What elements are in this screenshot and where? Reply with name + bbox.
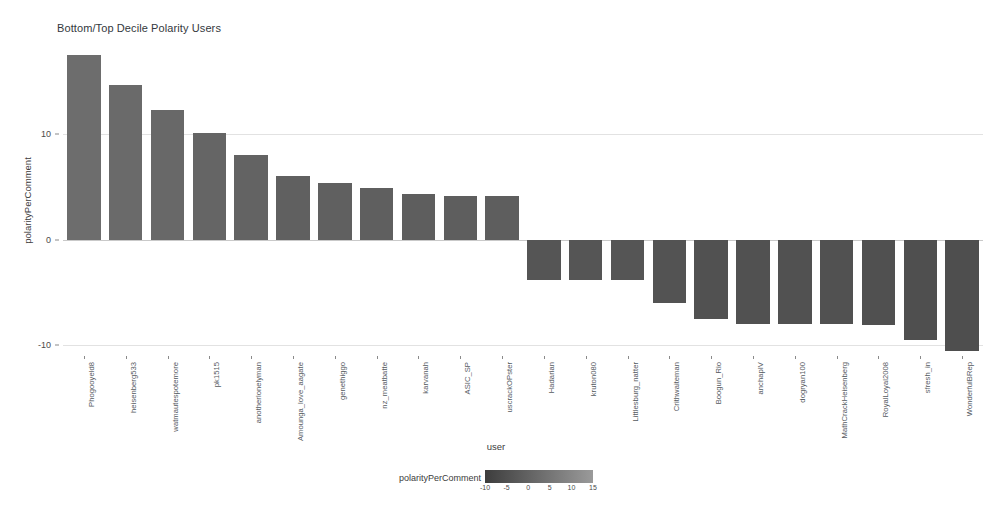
bars-layer bbox=[63, 44, 983, 356]
x-tick-mark bbox=[711, 356, 712, 359]
chart-title: Bottom/Top Decile Polarity Users bbox=[57, 22, 221, 34]
x-tick-label: heisenberg533 bbox=[129, 362, 138, 413]
bar[interactable] bbox=[527, 240, 560, 280]
bar[interactable] bbox=[318, 183, 351, 240]
bar[interactable] bbox=[736, 240, 769, 325]
x-tick-label: pk1515 bbox=[212, 362, 221, 387]
x-tick-mark bbox=[168, 356, 169, 359]
legend-tick-label: 5 bbox=[548, 484, 552, 491]
legend-tick-label: 10 bbox=[568, 484, 576, 491]
bar[interactable] bbox=[820, 240, 853, 325]
x-tick-label: sfresh_in bbox=[923, 362, 932, 393]
legend-tick-label: 0 bbox=[526, 484, 530, 491]
legend-gradient-bar bbox=[485, 470, 593, 483]
x-tick-mark bbox=[209, 356, 210, 359]
x-tick-label: watmautespotemore bbox=[171, 362, 180, 432]
y-tick-mark bbox=[55, 133, 59, 134]
x-tick-label: genethiggo bbox=[338, 362, 347, 400]
x-tick-mark bbox=[502, 356, 503, 359]
x-tick-label: RoyalLoyal2008 bbox=[881, 362, 890, 417]
bar[interactable] bbox=[485, 196, 518, 239]
bar[interactable] bbox=[611, 240, 644, 280]
legend-title: polarityPerComment bbox=[399, 470, 481, 483]
legend-tick-label: -5 bbox=[503, 484, 509, 491]
bar[interactable] bbox=[653, 240, 686, 303]
bar[interactable] bbox=[694, 240, 727, 319]
bar[interactable] bbox=[778, 240, 811, 325]
x-tick-label: Hadarian bbox=[547, 362, 556, 393]
x-tick-mark bbox=[753, 356, 754, 359]
x-tick-mark bbox=[84, 356, 85, 359]
x-tick-label: uscrackOPster bbox=[505, 362, 514, 412]
x-axis: Phogooyeld8heisenberg533watmautespotemor… bbox=[63, 356, 983, 442]
y-axis: 100-10 bbox=[0, 44, 63, 356]
x-tick-mark bbox=[628, 356, 629, 359]
x-tick-mark bbox=[586, 356, 587, 359]
x-tick-mark bbox=[962, 356, 963, 359]
bar[interactable] bbox=[67, 55, 100, 240]
legend-tick-labels: -10-5051015 bbox=[485, 483, 593, 495]
x-tick-mark bbox=[795, 356, 796, 359]
x-tick-mark bbox=[418, 356, 419, 359]
legend-scale: -10-5051015 bbox=[485, 470, 593, 495]
y-tick-label: 10 bbox=[41, 129, 51, 139]
x-tick-mark bbox=[920, 356, 921, 359]
x-tick-label: anchapIV bbox=[756, 362, 765, 395]
plot-area bbox=[63, 44, 983, 356]
x-tick-mark bbox=[878, 356, 879, 359]
x-tick-mark bbox=[837, 356, 838, 359]
x-tick-label: Boogun_Rio bbox=[714, 362, 723, 404]
bar[interactable] bbox=[151, 110, 184, 240]
legend: polarityPerComment -10-5051015 bbox=[0, 470, 992, 495]
x-tick-label: Crithwaiteman bbox=[672, 362, 681, 411]
y-tick-mark bbox=[55, 239, 59, 240]
x-tick-mark bbox=[377, 356, 378, 359]
bar[interactable] bbox=[402, 194, 435, 239]
x-tick-mark bbox=[335, 356, 336, 359]
x-tick-mark bbox=[544, 356, 545, 359]
y-tick-mark bbox=[55, 345, 59, 346]
x-tick-label: WonderfulBRep bbox=[965, 362, 974, 416]
x-tick-label: Phogooyeld8 bbox=[87, 362, 96, 407]
x-tick-label: MathCrackHeisenberg bbox=[840, 362, 849, 439]
x-tick-mark bbox=[669, 356, 670, 359]
x-tick-label: Amounga_love_aagate bbox=[296, 362, 305, 441]
bar[interactable] bbox=[444, 196, 477, 239]
bar[interactable] bbox=[904, 240, 937, 340]
x-tick-mark bbox=[126, 356, 127, 359]
x-tick-mark bbox=[251, 356, 252, 359]
x-tick-label: dogryan100 bbox=[798, 362, 807, 403]
y-tick-label: -10 bbox=[38, 340, 51, 350]
x-tick-label: karvanah bbox=[421, 362, 430, 394]
x-axis-title: user bbox=[0, 441, 992, 452]
bar[interactable] bbox=[945, 240, 978, 351]
x-tick-label: nz_meatbatte bbox=[380, 362, 389, 409]
y-tick-label: 0 bbox=[46, 235, 51, 245]
legend-tick-label: 15 bbox=[589, 484, 597, 491]
legend-tick-label: -10 bbox=[480, 484, 490, 491]
x-tick-label: kruton080 bbox=[589, 362, 598, 396]
bar[interactable] bbox=[234, 155, 267, 240]
x-tick-mark bbox=[460, 356, 461, 359]
bar[interactable] bbox=[569, 240, 602, 280]
bar[interactable] bbox=[276, 176, 309, 239]
x-tick-label: Littlesburg_natter bbox=[631, 362, 640, 422]
bar[interactable] bbox=[360, 188, 393, 240]
bar[interactable] bbox=[193, 133, 226, 240]
bar[interactable] bbox=[109, 85, 142, 239]
bar[interactable] bbox=[862, 240, 895, 326]
x-tick-label: ASIC_SP bbox=[463, 362, 472, 394]
x-tick-label: anotherlonelyman bbox=[254, 362, 263, 423]
x-tick-mark bbox=[293, 356, 294, 359]
chart-container: Bottom/Top Decile Polarity Users polarit… bbox=[0, 0, 992, 519]
